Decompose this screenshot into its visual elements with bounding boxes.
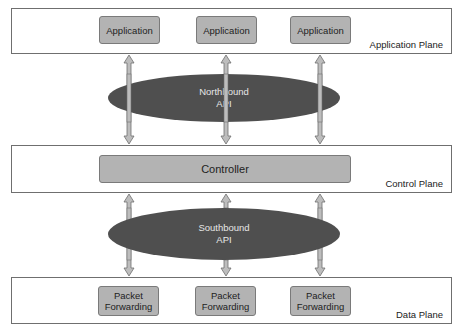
southbound-api-ellipse: Southbound API (108, 208, 340, 260)
application-box-2: Application (196, 16, 257, 44)
northbound-api-label-layer (108, 74, 340, 122)
application-box-label: Application (106, 25, 152, 36)
forwarding-label-line2: Forwarding (105, 301, 153, 312)
controller-label: Controller (201, 164, 249, 175)
forwarding-box-3: Packet Forwarding (290, 286, 351, 316)
forwarding-box-2: Packet Forwarding (195, 286, 256, 316)
forwarding-label-line2: Forwarding (202, 301, 250, 312)
application-box-label: Application (297, 25, 343, 36)
forwarding-label-line2: Forwarding (297, 301, 345, 312)
forwarding-box-1: Packet Forwarding (98, 286, 159, 316)
controller-box: Controller (99, 155, 351, 183)
southbound-api-line2: API (216, 234, 231, 246)
southbound-api-line1: Southbound (198, 222, 249, 234)
forwarding-label-line1: Packet (306, 290, 335, 301)
application-box-3: Application (290, 16, 351, 44)
application-box-label: Application (203, 25, 249, 36)
application-box-1: Application (99, 16, 160, 44)
forwarding-label-line1: Packet (114, 290, 143, 301)
forwarding-label-line1: Packet (211, 290, 240, 301)
